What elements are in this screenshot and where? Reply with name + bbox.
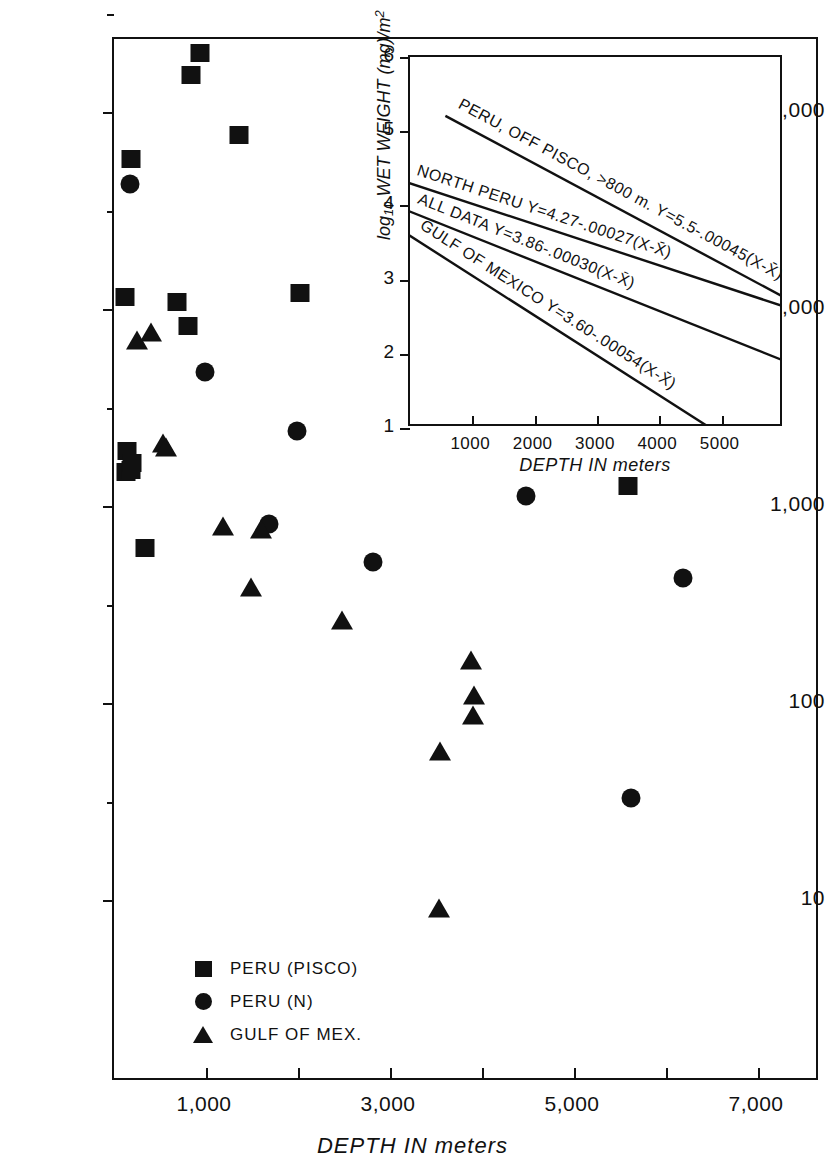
inset-x-axis-tick <box>722 416 724 425</box>
legend-item-label: PERU (N) <box>230 992 314 1012</box>
y-axis-tick <box>103 309 114 311</box>
data-point-triangle <box>462 705 484 724</box>
inset-y-axis-tick <box>400 131 410 133</box>
inset-x-axis-tick-label: 5000 <box>700 434 740 454</box>
data-point-circle <box>196 362 215 381</box>
data-point-square <box>190 44 209 62</box>
data-point-square <box>168 293 187 311</box>
inset-x-axis-tick <box>535 416 537 425</box>
x-axis-tick-label: 1,000 <box>176 1092 231 1116</box>
inset-x-axis-tick-label: 1000 <box>450 434 490 454</box>
x-axis-tick <box>666 1068 668 1079</box>
inset-x-axis-tick <box>659 416 661 425</box>
x-axis-tick <box>206 1068 208 1079</box>
y-axis-tick-label: 100 <box>727 689 825 713</box>
legend-item-label: GULF OF MEX. <box>230 1025 362 1045</box>
y-axis-minor-tick <box>107 211 114 213</box>
x-axis-tick <box>298 1068 300 1079</box>
x-axis-tick-label: 3,000 <box>360 1092 415 1116</box>
figure-root: 100,00010,0001,00010010 1,0003,0005,0007… <box>0 0 825 1176</box>
inset-y-axis-tick <box>400 280 410 282</box>
inset-x-axis-tick-label: 4000 <box>637 434 677 454</box>
data-point-square <box>182 66 201 84</box>
x-axis-title: DEPTH IN meters <box>0 1133 825 1159</box>
inset-y-axis-tick <box>400 57 410 59</box>
y-axis-tick <box>103 900 114 902</box>
data-point-triangle <box>460 651 482 670</box>
inset-y-axis-tick <box>400 205 410 207</box>
triangle-marker-glyph <box>193 1026 213 1043</box>
y-axis-tick <box>103 112 114 114</box>
data-point-square <box>230 126 249 144</box>
inset-y-axis-tick-label: 3 <box>364 267 394 289</box>
y-axis-tick-label: 1,000 <box>727 492 825 516</box>
data-point-square <box>178 317 197 335</box>
data-point-square <box>619 477 638 495</box>
data-point-circle <box>121 175 140 194</box>
circle-marker <box>190 993 216 1010</box>
x-axis-tick <box>482 1068 484 1079</box>
data-point-triangle <box>429 742 451 761</box>
x-axis-tick <box>390 1068 392 1079</box>
data-point-triangle <box>331 610 353 629</box>
x-axis-tick <box>574 1068 576 1079</box>
data-point-circle <box>364 552 383 571</box>
inset-x-axis-tick <box>597 416 599 425</box>
data-point-triangle <box>250 520 272 539</box>
square-marker <box>190 961 216 977</box>
inset-ylabel-subscript: 10 <box>381 202 396 216</box>
data-point-square <box>116 288 135 306</box>
inset-ylabel-superscript: 2 <box>372 10 387 17</box>
data-point-circle <box>517 486 536 505</box>
data-point-square <box>290 284 309 302</box>
y-axis-tick-label: 10 <box>727 886 825 910</box>
x-axis-tick-label: 7,000 <box>728 1092 783 1116</box>
data-point-square <box>123 454 142 472</box>
data-point-triangle <box>240 577 262 596</box>
inset-x-axis-tick-label: 3000 <box>575 434 615 454</box>
x-axis-tick-label: 5,000 <box>544 1092 599 1116</box>
legend-item: PERU (N) <box>190 985 362 1018</box>
data-point-triangle <box>463 685 485 704</box>
inset-x-axis-tick-label: 2000 <box>513 434 553 454</box>
data-point-triangle <box>428 899 450 918</box>
y-axis-tick <box>103 703 114 705</box>
legend-item-label: PERU (PISCO) <box>230 959 358 979</box>
data-point-triangle <box>155 437 177 456</box>
data-point-circle <box>622 788 641 807</box>
square-marker-glyph <box>195 961 212 977</box>
legend: PERU (PISCO)PERU (N)GULF OF MEX. <box>190 952 362 1051</box>
inset-y-axis-tick-label: 2 <box>364 341 394 363</box>
data-point-triangle <box>212 517 234 536</box>
data-point-circle <box>288 422 307 441</box>
inset-x-axis-tick <box>472 416 474 425</box>
y-axis-tick <box>103 506 114 508</box>
triangle-marker <box>190 1026 216 1043</box>
y-axis-minor-tick <box>107 605 114 607</box>
circle-marker-glyph <box>195 993 212 1010</box>
inset-ylabel-prefix: log <box>374 216 394 240</box>
legend-item: PERU (PISCO) <box>190 952 362 985</box>
inset-y-axis-tick <box>400 428 410 430</box>
data-point-square <box>121 150 140 168</box>
inset-ylabel-rest: WET WEIGHT (mg)/m <box>374 18 394 202</box>
inset-x-axis-title: DEPTH IN meters <box>408 455 782 476</box>
y-axis-minor-tick <box>107 802 114 804</box>
x-axis-tick <box>758 1068 760 1079</box>
y-axis-minor-tick <box>107 14 114 16</box>
inset-y-axis-tick-label: 1 <box>364 415 394 437</box>
data-point-circle <box>673 569 692 588</box>
data-point-triangle <box>140 323 162 342</box>
inset-y-axis-title: log10 WET WEIGHT (mg)/m2 <box>372 10 396 240</box>
data-point-square <box>136 539 155 557</box>
legend-item: GULF OF MEX. <box>190 1018 362 1051</box>
y-axis-minor-tick <box>107 408 114 410</box>
inset-y-axis-tick <box>400 354 410 356</box>
